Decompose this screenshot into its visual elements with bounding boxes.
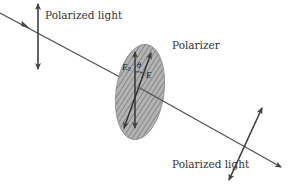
polarizer-disc — [110, 41, 171, 143]
transmitted-field-label: E — [146, 71, 152, 80]
input-light-label: Polarized light — [45, 10, 122, 21]
polarizer-label: Polarizer — [172, 40, 220, 51]
incident-field-label: E0 — [122, 63, 131, 72]
angle-label: θ — [137, 62, 141, 70]
transmitted-ray — [138, 87, 281, 167]
output-light-label: Polarized light — [172, 159, 249, 170]
polarization-diagram: Polarized light Polarizer Polarized ligh… — [0, 0, 288, 185]
incident-ray — [0, 13, 120, 77]
